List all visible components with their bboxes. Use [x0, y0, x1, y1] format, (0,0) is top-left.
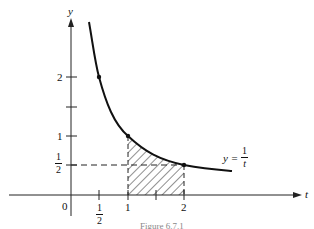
origin-label: 0 [62, 201, 68, 212]
t-tick-label-1: 1 [125, 202, 131, 213]
t-tick-label-2: 2 [181, 202, 187, 213]
y-tick-label-2: 2 [57, 72, 63, 83]
curve-y-equals-1-over-t [89, 22, 232, 171]
point-1-1 [126, 134, 130, 138]
curve-label: y = 1 t [223, 146, 248, 169]
figure-caption: Figure 6.7.1 [140, 221, 184, 229]
y-axis-arrow-icon [68, 18, 74, 27]
y-tick-label-half: 1 2 [55, 152, 62, 175]
y-axis-label: y [68, 6, 73, 17]
point-half-2 [97, 75, 101, 79]
t-tick-label-half: 1 2 [96, 203, 103, 226]
t-axis-arrow-icon [293, 192, 302, 198]
t-axis-label: t [305, 189, 308, 200]
y-tick-label-1: 1 [57, 131, 63, 142]
plot-canvas [0, 0, 314, 229]
point-2-half [182, 163, 186, 167]
